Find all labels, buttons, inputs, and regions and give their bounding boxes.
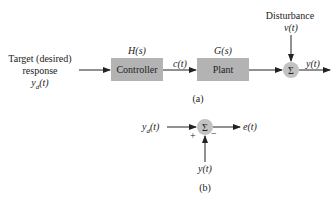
reference-signal: yd(t) (142, 121, 159, 137)
controller-transfer-function: H(s) (128, 45, 146, 56)
plant-label: Plant (213, 64, 234, 75)
plant-block: Plant (197, 58, 249, 81)
plant-transfer-function: G(s) (214, 45, 232, 56)
input-label-line2: response (23, 65, 58, 76)
minus-sign: − (211, 128, 217, 139)
output-signal: y(t) (306, 58, 320, 69)
controller-label: Controller (116, 64, 157, 75)
feedback-signal: y(t) (198, 163, 212, 174)
input-label-line1: Target (desired) (8, 53, 71, 64)
input-label-signal: yd(t) (31, 77, 48, 93)
summing-junction-a: Σ (283, 62, 299, 78)
sigma-symbol: Σ (202, 122, 208, 133)
disturbance-signal: ν(t) (284, 22, 298, 33)
caption-a: (a) (192, 93, 203, 104)
caption-b: (b) (199, 182, 211, 193)
disturbance-label: Disturbance (266, 10, 314, 21)
error-signal: e(t) (243, 121, 257, 132)
sigma-symbol: Σ (288, 65, 294, 76)
plus-sign: + (190, 130, 196, 141)
controller-output-signal: c(t) (173, 58, 187, 69)
controller-block: Controller (111, 58, 163, 81)
